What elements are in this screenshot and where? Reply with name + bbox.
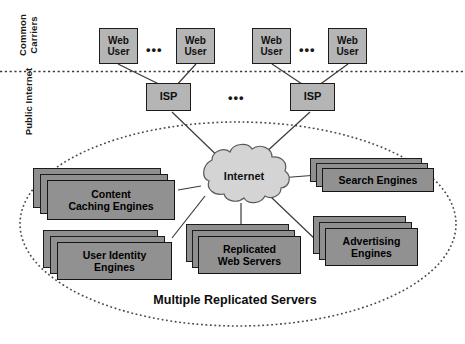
web-user-box-4[interactable]: Web User: [328, 28, 367, 64]
server-stack-label: Replicated Web Servers: [198, 236, 301, 274]
diagram-caption: Multiple Replicated Servers: [90, 293, 380, 307]
server-stack-user-identity-engines[interactable]: User Identity Engines: [43, 230, 183, 285]
server-stack-advertising-engines[interactable]: Advertising Engines: [313, 216, 438, 271]
isp-box-2[interactable]: ISP: [290, 83, 335, 111]
zone-label-public-internet: Public Internet: [23, 52, 34, 152]
server-stack-label: Search Engines: [322, 168, 434, 192]
ellipsis-users-right: •••: [299, 43, 316, 56]
ellipsis-isps: •••: [228, 91, 245, 104]
link-internet-content-caching: [178, 186, 201, 190]
network-architecture-diagram: Common Carriers Public Internet Web User…: [0, 0, 465, 344]
web-user-box-2[interactable]: Web User: [176, 28, 215, 64]
internet-cloud-label: Internet: [205, 170, 283, 182]
web-user-box-3[interactable]: Web User: [252, 28, 291, 64]
ellipsis-users-left: •••: [146, 43, 163, 56]
web-user-box-1[interactable]: Web User: [99, 28, 138, 64]
server-stack-content-caching-engines[interactable]: Content Caching Engines: [33, 168, 178, 223]
server-stack-label: User Identity Engines: [57, 242, 172, 280]
server-stack-search-engines[interactable]: Search Engines: [310, 158, 438, 198]
server-stack-replicated-web-servers[interactable]: Replicated Web Servers: [186, 224, 311, 279]
server-stack-label: Advertising Engines: [325, 228, 418, 266]
isp-box-1[interactable]: ISP: [146, 83, 191, 111]
server-stack-label: Content Caching Engines: [47, 180, 175, 220]
